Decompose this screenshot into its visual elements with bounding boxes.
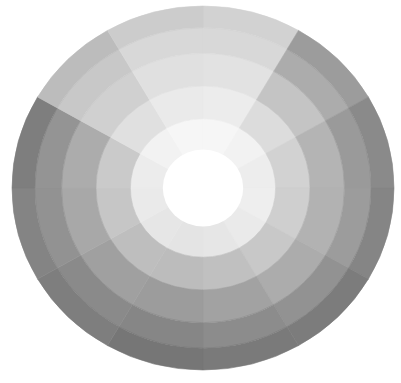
wheel-center	[163, 150, 243, 227]
value-wheel-painting	[0, 0, 401, 383]
